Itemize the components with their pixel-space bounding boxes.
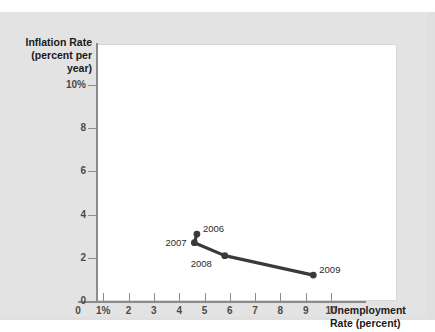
series-line [194, 234, 313, 275]
figure-container: Inflation Rate (percent per year) Unempl… [0, 12, 435, 320]
figure-inner-panel: Inflation Rate (percent per year) Unempl… [0, 12, 427, 317]
data-point-label: 2006 [203, 223, 224, 234]
data-point-marker[interactable] [310, 272, 317, 279]
data-point-marker[interactable] [221, 252, 228, 259]
data-point-marker[interactable] [194, 231, 201, 238]
data-point-label: 2007 [165, 237, 186, 248]
data-point-marker[interactable] [191, 239, 198, 246]
data-series-layer [0, 12, 435, 320]
data-point-label: 2008 [191, 258, 212, 269]
data-point-label: 2009 [319, 264, 340, 275]
